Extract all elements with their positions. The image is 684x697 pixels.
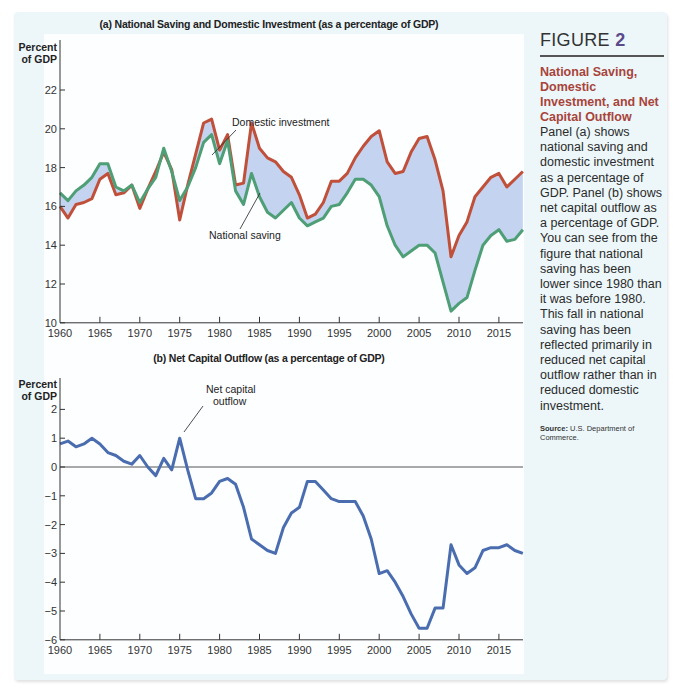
x-tick-label: 1980 — [207, 644, 231, 656]
y-tick-label: 12 — [45, 278, 57, 290]
net-capital-outflow-annotation-line1: Net capital — [206, 383, 256, 395]
y-tick-label: 18 — [45, 162, 57, 174]
x-tick-label: 2010 — [447, 327, 471, 339]
panel-a-title: (a) National Saving and Domestic Investm… — [100, 18, 439, 30]
chart-area: (a) National Saving and Domestic Investm… — [14, 12, 524, 680]
x-tick-label: 1970 — [128, 327, 152, 339]
y-tick-label: 16 — [45, 200, 57, 212]
panel-b-title: (b) Net Capital Outflow (as a percentage… — [153, 352, 384, 364]
x-tick-label: 1965 — [88, 327, 112, 339]
panel-b-ylabel-line1: Percent — [18, 378, 57, 390]
figure-label: FIGURE 2 — [540, 30, 664, 57]
x-tick-label: 1965 — [88, 644, 112, 656]
panel-a-ylabel-line2: of GDP — [21, 53, 57, 65]
caption-body: Panel (a) shows national saving and dome… — [540, 125, 664, 414]
y-tick-label: −1 — [44, 490, 57, 502]
caption-title: National Saving, Domestic Investment, an… — [540, 65, 664, 125]
y-tick-label: 0 — [51, 461, 57, 473]
x-tick-label: 1995 — [327, 644, 351, 656]
figure-number: 2 — [615, 30, 625, 50]
x-tick-label: 2005 — [407, 327, 431, 339]
y-tick-label: −4 — [44, 576, 57, 588]
x-tick-label: 1960 — [48, 327, 72, 339]
x-tick-label: 1985 — [247, 644, 271, 656]
panel-b-ylabel-line2: of GDP — [21, 390, 57, 402]
source-label: Source: — [540, 424, 568, 433]
domestic-investment-annotation: Domestic investment — [232, 116, 330, 128]
national-saving-annotation: National saving — [209, 229, 281, 241]
x-tick-label: 2000 — [367, 327, 391, 339]
x-tick-label: 1960 — [48, 644, 72, 656]
y-tick-label: 2 — [51, 403, 57, 415]
x-tick-label: 1975 — [167, 327, 191, 339]
x-tick-label: 1985 — [247, 327, 271, 339]
y-tick-label: −3 — [44, 547, 57, 559]
y-tick-label: 14 — [45, 239, 57, 251]
y-tick-label: −2 — [44, 519, 57, 531]
y-tick-label: −5 — [44, 605, 57, 617]
x-tick-label: 1990 — [287, 327, 311, 339]
x-tick-label: 1995 — [327, 327, 351, 339]
x-tick-label: 1990 — [287, 644, 311, 656]
y-tick-label: 1 — [51, 432, 57, 444]
figure-label-text: FIGURE — [540, 30, 610, 50]
net-capital-outflow-annotation-line2: outflow — [213, 395, 247, 407]
x-tick-label: 2010 — [447, 644, 471, 656]
panel-a-ylabel-line1: Percent — [18, 41, 57, 53]
x-tick-label: 2005 — [407, 644, 431, 656]
x-tick-label: 2015 — [487, 327, 511, 339]
y-tick-label: 20 — [45, 123, 57, 135]
figure-caption: FIGURE 2 National Saving, Domestic Inves… — [540, 30, 664, 442]
x-tick-label: 2000 — [367, 644, 391, 656]
caption-source: Source: U.S. Department of Commerce. — [540, 424, 664, 442]
figure-charts: (a) National Saving and Domestic Investm… — [14, 12, 524, 680]
x-tick-label: 2015 — [487, 644, 511, 656]
x-tick-label: 1970 — [128, 644, 152, 656]
x-tick-label: 1980 — [207, 327, 231, 339]
x-tick-label: 1975 — [167, 644, 191, 656]
y-tick-label: 22 — [45, 84, 57, 96]
